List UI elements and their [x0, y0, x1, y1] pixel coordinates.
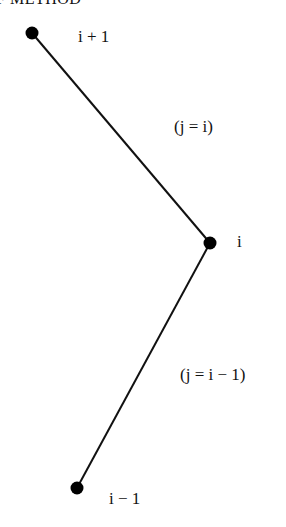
node-label-top: i + 1 — [78, 27, 109, 47]
edge-label-top-mid: (j = i) — [174, 117, 213, 137]
node-top-dot — [26, 27, 39, 40]
diagram-canvas — [0, 0, 286, 527]
node-label-mid: i — [237, 232, 242, 252]
node-mid-dot — [204, 237, 217, 250]
node-bottom-dot — [71, 482, 84, 495]
edge-label-mid-bottom: (j = i − 1) — [180, 365, 245, 385]
edge-top-mid — [32, 33, 210, 243]
node-label-bottom: i − 1 — [109, 489, 140, 509]
